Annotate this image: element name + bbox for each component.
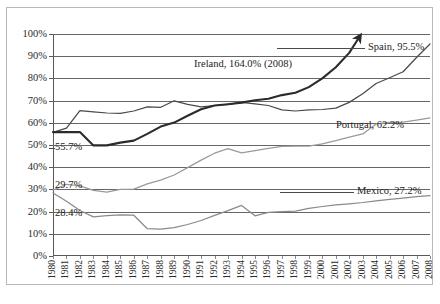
y-axis-tick-label: 70% [28,95,47,106]
x-tick [336,256,337,259]
x-axis-tick-label: 1993 [223,260,233,279]
x-axis-tick-label: 1997 [277,260,287,279]
plot-area: 0%10%20%30%40%50%60%70%80%90%100% 198019… [53,34,430,256]
y-axis-tick-label: 80% [28,73,47,84]
series-line-ireland [53,36,360,145]
x-tick [282,256,283,259]
x-axis-tick-label: 1988 [156,260,166,279]
mexico-start-label: 28.4% [55,208,82,219]
x-axis-tick-label: 1994 [237,260,247,279]
x-axis-tick-label: 2003 [358,260,368,279]
y-axis-tick-label: 100% [23,29,48,40]
x-axis-tick-label: 2004 [371,260,381,279]
x-axis-tick-label: 1991 [196,260,206,279]
x-tick [268,256,269,259]
ireland-end-label: Ireland, 164.0% (2008) [194,59,292,70]
x-axis-tick-label: 2005 [385,260,395,279]
x-axis-tick-label: 1990 [183,260,193,279]
x-axis-tick-label: 1996 [264,260,274,279]
x-axis-tick-label: 1981 [62,260,72,279]
x-tick [376,256,377,259]
figure-frame: 0%10%20%30%40%50%60%70%80%90%100% 198019… [6,7,433,285]
y-axis-tick-label: 50% [28,140,47,151]
x-tick [53,256,54,259]
portugal-start-label: 29.7% [55,180,82,191]
x-tick [363,256,364,259]
x-axis-tick-label: 1986 [129,260,139,279]
spain-start-leader [49,148,55,149]
x-tick [255,256,256,259]
x-tick [80,256,81,259]
x-tick [120,256,121,259]
x-axis-tick-label: 1989 [169,260,179,279]
x-axis-tick-label: 1980 [48,260,58,279]
x-tick [174,256,175,259]
x-axis-tick-label: 2002 [344,260,354,279]
spain-end-label: Spain, 95.5% [368,42,424,53]
x-tick [228,256,229,259]
x-axis-tick-label: 1992 [210,260,220,279]
y-axis-tick-label: 40% [28,162,47,173]
x-axis-tick-label: 2007 [412,260,422,279]
y-axis-tick-label: 90% [28,51,47,62]
x-axis-tick-label: 1983 [89,260,99,279]
chart-screenshot: 0%10%20%30%40%50%60%70%80%90%100% 198019… [0,0,440,304]
x-tick [242,256,243,259]
x-tick [430,256,431,259]
spain-start-label: 55.7% [55,142,82,153]
mexico-end-leader [280,192,354,193]
x-axis-tick-label: 2001 [331,260,341,279]
x-axis-tick-label: 1995 [250,260,260,279]
y-axis-tick-label: 0% [33,251,47,262]
x-tick [322,256,323,259]
x-tick [147,256,148,259]
x-axis-tick-label: 2006 [398,260,408,279]
x-axis-tick-label: 1984 [102,260,112,279]
x-tick [349,256,350,259]
x-axis-tick-label: 2008 [425,260,435,279]
x-tick [215,256,216,259]
x-axis-tick-label: 1982 [75,260,85,279]
y-axis-tick-label: 60% [28,118,47,129]
portugal-end-label: Portugal, 62.2% [336,120,404,131]
y-axis-tick-label: 10% [28,229,47,240]
x-axis-tick-label: 1999 [304,260,314,279]
series-line-mexico [53,193,430,229]
x-axis-tick-label: 2000 [318,260,328,279]
x-axis-tick-label: 1998 [291,260,301,279]
x-tick [161,256,162,259]
x-axis-tick-label: 1985 [116,260,126,279]
x-tick [390,256,391,259]
x-tick [417,256,418,259]
x-tick [309,256,310,259]
x-tick [403,256,404,259]
mexico-end-label: Mexico, 27.2% [357,186,421,197]
x-tick [66,256,67,259]
y-axis-tick-label: 30% [28,184,47,195]
x-tick [107,256,108,259]
x-tick [295,256,296,259]
y-axis-tick-label: 20% [28,206,47,217]
x-axis-tick-label: 1987 [143,260,153,279]
x-tick [134,256,135,259]
x-tick [201,256,202,259]
x-tick [188,256,189,259]
spain-end-leader [277,48,365,49]
x-tick [93,256,94,259]
